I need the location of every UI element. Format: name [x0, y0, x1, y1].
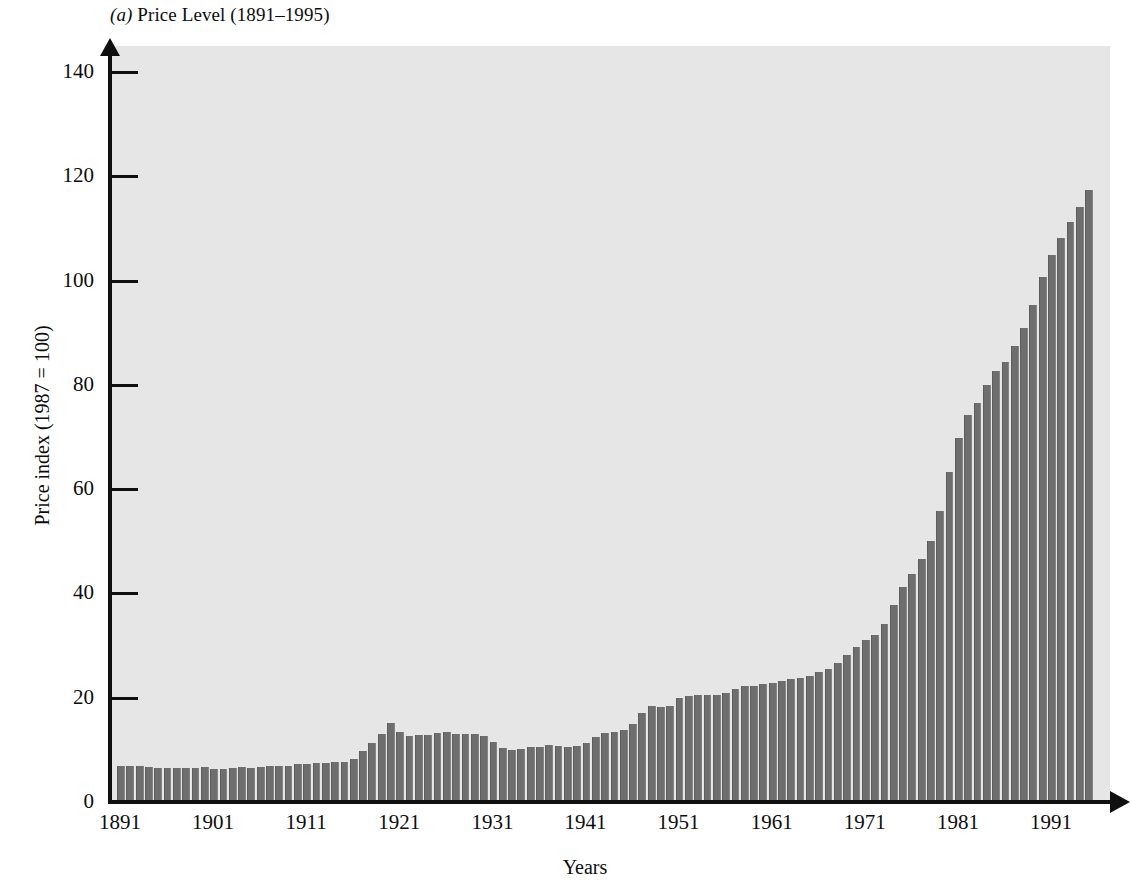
bar-1913 [322, 763, 330, 802]
bar-1964 [797, 678, 805, 802]
bar-1946 [629, 724, 637, 802]
y-tick-label-140: 140 [24, 61, 94, 82]
bar-1901 [210, 769, 218, 802]
x-axis-arrow-icon [1110, 791, 1130, 813]
bar-1931 [490, 742, 498, 802]
bar-1974 [890, 605, 898, 802]
x-tick-label-1941: 1941 [540, 812, 630, 833]
bar-1898 [182, 768, 190, 802]
bar-1958 [741, 686, 749, 802]
bar-1982 [964, 415, 972, 802]
bar-1942 [592, 737, 600, 802]
bar-1959 [750, 686, 758, 802]
y-tick-20 [112, 697, 138, 700]
x-tick-label-1911: 1911 [261, 812, 351, 833]
bar-1950 [666, 706, 674, 802]
x-tick-label-1951: 1951 [634, 812, 724, 833]
x-axis-line [108, 800, 1114, 804]
bar-1960 [759, 684, 767, 802]
bar-1930 [480, 736, 488, 802]
bar-1909 [285, 766, 293, 802]
bar-1937 [545, 745, 553, 802]
bar-1977 [918, 559, 926, 802]
bar-1991 [1048, 255, 1056, 802]
y-tick-100 [112, 280, 138, 283]
bar-1928 [462, 734, 470, 802]
bar-1992 [1057, 238, 1065, 802]
bar-1985 [992, 371, 1000, 802]
y-tick-40 [112, 592, 138, 595]
x-tick-label-1961: 1961 [727, 812, 817, 833]
bar-1961 [769, 683, 777, 802]
y-tick-80 [112, 384, 138, 387]
bar-1965 [806, 676, 814, 802]
bar-1896 [164, 768, 172, 802]
x-tick-label-1901: 1901 [168, 812, 258, 833]
y-tick-label-40: 40 [24, 582, 94, 603]
bar-1918 [368, 743, 376, 802]
bar-1990 [1039, 277, 1047, 802]
x-tick-label-1931: 1931 [447, 812, 537, 833]
bar-1932 [499, 748, 507, 802]
y-axis-title: Price index (1987 = 100) [31, 266, 54, 586]
bar-1902 [220, 769, 228, 802]
bar-1892 [126, 766, 134, 803]
bar-1925 [434, 733, 442, 802]
bar-1912 [313, 763, 321, 802]
price-level-chart-figure: (a) Price Level (1891–1995) 020406080100… [0, 0, 1132, 896]
y-tick-label-120: 120 [24, 165, 94, 186]
y-tick-label-0: 0 [24, 791, 94, 812]
bar-1967 [825, 669, 833, 802]
bar-1968 [834, 663, 842, 802]
x-axis-title: Years [0, 856, 1132, 879]
bar-1933 [508, 750, 516, 802]
bar-1954 [704, 695, 712, 802]
x-tick-label-1971: 1971 [820, 812, 910, 833]
bar-1919 [378, 734, 386, 802]
bar-1987 [1011, 346, 1019, 802]
bar-1915 [341, 762, 349, 802]
bar-1914 [331, 762, 339, 802]
bar-1979 [936, 511, 944, 802]
bar-1952 [685, 696, 693, 802]
bar-1891 [117, 766, 125, 803]
bar-1948 [648, 706, 656, 802]
bar-1907 [266, 766, 274, 803]
bar-1973 [881, 624, 889, 802]
bar-1963 [787, 679, 795, 802]
bar-1911 [303, 764, 311, 802]
bar-1955 [713, 695, 721, 802]
bar-1975 [899, 587, 907, 802]
bar-1953 [694, 695, 702, 802]
bar-1894 [145, 767, 153, 802]
x-tick-label-1981: 1981 [913, 812, 1003, 833]
bar-1895 [154, 768, 162, 802]
bar-1908 [275, 766, 283, 802]
bar-1920 [387, 723, 395, 802]
bar-1940 [573, 746, 581, 802]
bar-1966 [815, 672, 823, 802]
bar-1926 [443, 732, 451, 802]
bar-1922 [406, 736, 414, 802]
panel-label: (a) [110, 4, 132, 25]
bar-1904 [238, 767, 246, 802]
bar-1981 [955, 438, 963, 802]
bar-1983 [974, 403, 982, 802]
x-axis-title-text: Years [563, 856, 608, 879]
bar-1934 [517, 749, 525, 802]
bar-1949 [657, 707, 665, 802]
bar-1917 [359, 751, 367, 802]
bar-1971 [862, 640, 870, 802]
y-tick-60 [112, 488, 138, 491]
bar-1984 [983, 385, 991, 802]
bar-1905 [247, 768, 255, 802]
bar-1916 [350, 759, 358, 802]
bar-1993 [1067, 222, 1075, 802]
x-tick-label-1891: 1891 [75, 812, 165, 833]
y-tick-140 [112, 71, 138, 74]
bar-1921 [396, 732, 404, 802]
bar-1988 [1020, 328, 1028, 803]
bar-1972 [871, 635, 879, 802]
bar-1970 [853, 647, 861, 802]
x-tick-label-1921: 1921 [354, 812, 444, 833]
